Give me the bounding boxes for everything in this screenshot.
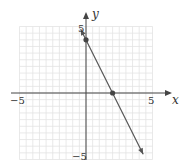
x-axis-label: x [172, 93, 179, 107]
y-axis-label: y [91, 7, 99, 21]
y-max-label: 5 [78, 23, 84, 34]
x-max-label: 5 [148, 95, 154, 106]
y-min-label: −5 [72, 151, 87, 162]
intercept-point [83, 37, 88, 42]
x-min-label: −5 [10, 95, 25, 106]
intercept-point [110, 90, 115, 95]
coordinate-plane: x y −5 5 5 −5 [0, 0, 181, 167]
